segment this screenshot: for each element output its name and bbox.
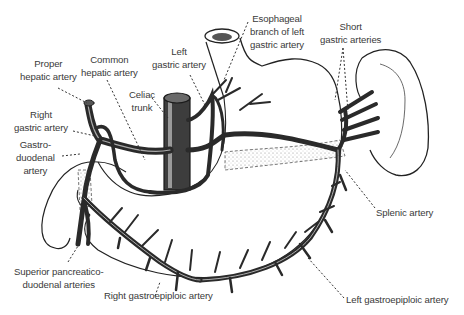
- label-line: hepatic artery: [20, 70, 77, 83]
- label-right-gastroepiploic-artery: Right gastroepiploic artery: [104, 289, 213, 302]
- label-line: Short: [320, 20, 381, 33]
- label-line: hepatic artery: [81, 66, 138, 79]
- label-line: gastric arteries: [320, 33, 381, 46]
- label-line: Celiac: [129, 88, 155, 101]
- label-line: trunk: [129, 101, 155, 114]
- label-proper-hepatic-artery: Proper hepatic artery: [20, 57, 77, 83]
- aorta: [164, 93, 190, 190]
- label-splenic-artery: Splenic artery: [376, 206, 433, 219]
- spleen: [356, 50, 429, 176]
- label-short-gastric-arteries: Short gastric arteries: [320, 20, 381, 46]
- label-right-gastric-artery: Right gastric artery: [14, 108, 68, 134]
- label-line: Gastro-: [16, 138, 55, 151]
- label-celiac-trunk: Celiac trunk: [129, 88, 155, 114]
- label-line: Right: [14, 108, 68, 121]
- label-superior-pancreaticoduodenal-arteries: Superior pancreatico- duodenal arteries: [14, 265, 104, 291]
- label-line: gastric artery: [14, 121, 68, 134]
- label-left-gastroepiploic-artery: Left gastroepiploic artery: [346, 293, 448, 306]
- label-line: duodenal: [16, 151, 55, 164]
- label-left-gastric-artery: Left gastric artery: [152, 45, 206, 71]
- label-esophageal-branch: Esophageal branch of left gastric artery: [250, 12, 304, 51]
- label-line: Proper: [20, 57, 77, 70]
- label-line: Superior pancreatico-: [14, 265, 104, 278]
- label-line: Left: [152, 45, 206, 58]
- label-gastroduodenal-artery: Gastro- duodenal artery: [16, 138, 55, 177]
- label-line: Splenic artery: [376, 206, 433, 219]
- label-line: Right gastroepiploic artery: [104, 289, 213, 302]
- label-common-hepatic-artery: Common hepatic artery: [81, 53, 138, 79]
- label-line: gastric artery: [152, 58, 206, 71]
- label-line: duodenal arteries: [14, 278, 104, 291]
- label-line: gastric artery: [250, 38, 304, 51]
- label-line: Common: [81, 53, 138, 66]
- arteries: [78, 78, 378, 292]
- label-line: branch of left: [250, 25, 304, 38]
- label-line: artery: [16, 164, 55, 177]
- label-line: Left gastroepiploic artery: [346, 293, 448, 306]
- label-line: Esophageal: [250, 12, 304, 25]
